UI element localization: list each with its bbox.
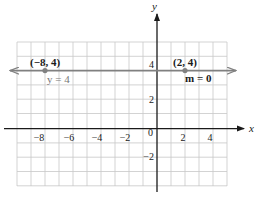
origin-label: 0 — [148, 127, 153, 138]
y-axis-label: y — [151, 0, 157, 12]
y-tick-4: 4 — [149, 59, 154, 70]
point-label-neg8-4: (−8, 4) — [30, 56, 60, 69]
x-tick-neg4: −4 — [92, 132, 103, 143]
x-tick-neg2: −2 — [120, 132, 131, 143]
graph-svg: x y −8 −6 −4 −2 2 4 0 4 2 −2 (−8, 4) (2,… — [0, 0, 264, 200]
x-tick-neg6: −6 — [64, 132, 75, 143]
x-tick-2: 2 — [181, 132, 186, 143]
y-tick-2: 2 — [149, 94, 154, 105]
point-label-2-4: (2, 4) — [173, 56, 197, 69]
x-tick-neg8: −8 — [34, 132, 45, 143]
x-axis-label: x — [248, 122, 254, 134]
x-tick-4: 4 — [208, 132, 213, 143]
equation-label: y = 4 — [47, 73, 70, 85]
y-tick-neg2: −2 — [143, 151, 154, 162]
coordinate-plane-figure: x y −8 −6 −4 −2 2 4 0 4 2 −2 (−8, 4) (2,… — [0, 0, 264, 200]
slope-label: m = 0 — [185, 72, 212, 84]
